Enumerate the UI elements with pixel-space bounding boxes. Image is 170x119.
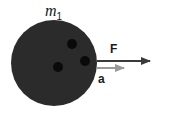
diagram-canvas (0, 0, 170, 119)
mass-label: m1 (45, 2, 62, 22)
thumb-hole (53, 62, 63, 72)
mass-subscript: 1 (57, 11, 63, 22)
acceleration-label: a (98, 72, 105, 86)
bowling-ball (11, 20, 97, 106)
force-label: F (110, 42, 117, 56)
finger-hole (80, 56, 90, 66)
mass-symbol: m (45, 2, 57, 19)
finger-hole (67, 39, 77, 49)
